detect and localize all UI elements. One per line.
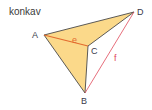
quadrilateral-fill <box>44 12 134 93</box>
diagonal-label-e: e <box>72 35 77 45</box>
vertex-label-c: C <box>91 46 98 56</box>
diagonal-label-f: f <box>114 53 117 63</box>
quadrilateral-diagram: A D C B e f <box>0 0 152 110</box>
vertex-label-a: A <box>32 30 38 40</box>
vertex-label-b: B <box>81 96 87 106</box>
vertex-label-d: D <box>137 7 144 17</box>
